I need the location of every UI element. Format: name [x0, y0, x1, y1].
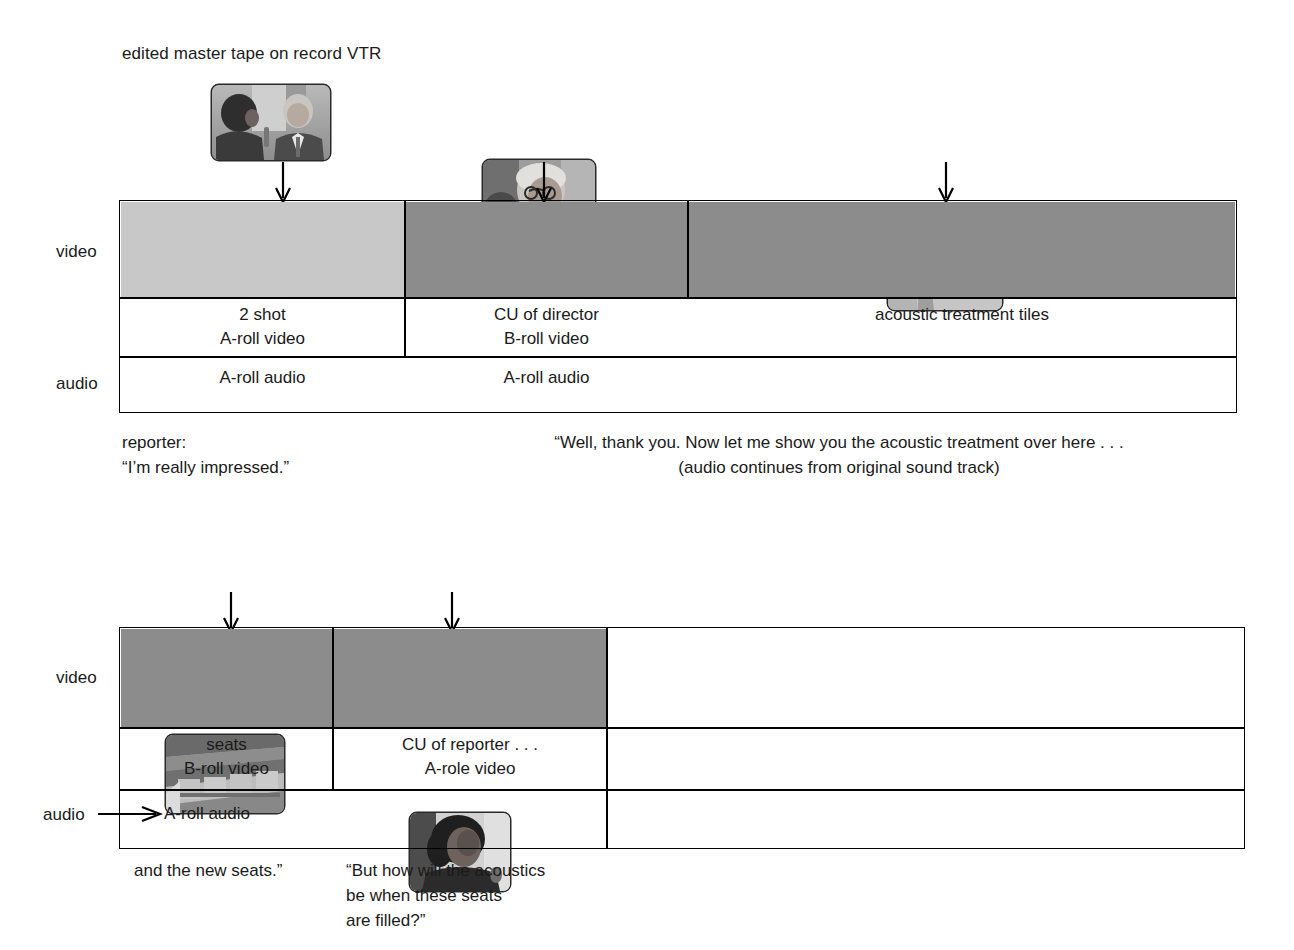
video-block-segment-5 — [334, 629, 606, 728]
caption-1-director: “Well, thank you. Now let me show you th… — [454, 430, 1224, 480]
video-label-cell-5: CU of reporter . . . A-role video — [334, 733, 606, 781]
audio-cell-3-text: A-roll audio — [164, 802, 404, 826]
video-label-cell-2: CU of director B-roll video — [406, 303, 687, 351]
video-label-cell-4-line1: seats — [121, 733, 332, 757]
arrow-down-to-segment-2 — [535, 162, 553, 204]
video-block-segment-2 — [406, 202, 687, 298]
video-block-segment-1 — [121, 202, 405, 298]
rule-label-audio-divider-2 — [119, 789, 1245, 791]
audio-cell-2: A-roll audio — [406, 366, 687, 390]
caption-1-director-line1: “Well, thank you. Now let me show you th… — [454, 430, 1224, 455]
video-label-cell-5-line2: A-role video — [334, 757, 606, 781]
audio-cell-1-text: A-roll audio — [121, 366, 404, 390]
caption-2-seats: and the new seats.” — [134, 858, 282, 883]
caption-1-reporter: reporter: “I’m really impressed.” — [122, 430, 289, 480]
video-label-cell-4-line2: B-roll video — [121, 757, 332, 781]
video-label-cell-5-line1: CU of reporter . . . — [334, 733, 606, 757]
track-label-video-1: video — [56, 242, 97, 262]
track-label-video-2: video — [56, 668, 97, 688]
page-title: edited master tape on record VTR — [122, 44, 381, 64]
rule-column-divider-2b — [606, 627, 608, 849]
arrow-down-to-segment-3 — [937, 162, 955, 204]
track-label-audio-2: audio — [43, 805, 85, 825]
video-label-cell-3: acoustic treatment tiles — [689, 303, 1235, 327]
rule-video-label-divider-1 — [119, 297, 1237, 299]
video-label-cell-3-line1: acoustic treatment tiles — [689, 303, 1235, 327]
video-label-cell-1-line2: A-roll video — [121, 327, 404, 351]
caption-2-q-line1: “But how will the acoustics — [346, 858, 545, 883]
caption-2-reporter-question: “But how will the acoustics be when thes… — [346, 858, 545, 933]
video-block-segment-4 — [121, 629, 333, 728]
caption-1-line1: reporter: — [122, 430, 289, 455]
video-label-cell-2-line1: CU of director — [406, 303, 687, 327]
video-label-cell-4: seats B-roll video — [121, 733, 332, 781]
video-label-cell-1: 2 shot A-roll video — [121, 303, 404, 351]
rule-video-label-divider-2 — [119, 727, 1245, 729]
thumbnail-two-shot-reporter-and-director — [212, 85, 330, 160]
video-label-cell-2-line2: B-roll video — [406, 327, 687, 351]
caption-2-q-line3: are filled?” — [346, 908, 545, 933]
thumbnail-image-two-shot — [212, 85, 330, 160]
track-label-audio-1: audio — [56, 374, 98, 394]
audio-cell-3: A-roll audio — [164, 802, 404, 826]
caption-1-director-line2: (audio continues from original sound tra… — [454, 455, 1224, 480]
video-label-cell-1-line1: 2 shot — [121, 303, 404, 327]
rule-label-audio-divider-1 — [119, 356, 1237, 358]
arrow-down-to-segment-1 — [274, 162, 292, 204]
caption-2-q-line2: be when these seats — [346, 883, 545, 908]
rule-column-divider-1b — [687, 200, 689, 298]
caption-1-line2: “I’m really impressed.” — [122, 455, 289, 480]
audio-cell-1: A-roll audio — [121, 366, 404, 390]
video-block-segment-3 — [689, 202, 1235, 298]
caption-2-line1: and the new seats.” — [134, 858, 282, 883]
audio-cell-2-text: A-roll audio — [406, 366, 687, 390]
